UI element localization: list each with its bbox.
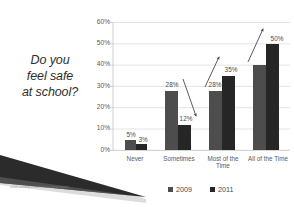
bar-label-sometimes-2009: 28% bbox=[162, 82, 182, 88]
bar-sometimes-2011[interactable] bbox=[178, 125, 191, 151]
bar-label-sometimes-2011: 12% bbox=[176, 116, 196, 122]
legend-entry-2011[interactable]: 2011 bbox=[210, 186, 233, 193]
ytick-label-50: 50% bbox=[84, 40, 110, 47]
legend-entry-2009[interactable]: 2009 bbox=[168, 186, 192, 193]
xtick-label-most-of-the-time-line-2: Time bbox=[216, 162, 230, 169]
bar-all-of-the-time-2009[interactable] bbox=[253, 65, 266, 150]
ytick-label-30: 30% bbox=[84, 83, 110, 90]
xtick-label-most-of-the-time: Most of the Time bbox=[202, 155, 244, 170]
bar-label-never-2011: 3% bbox=[134, 137, 152, 143]
xtick-label-sometimes: Sometimes bbox=[159, 155, 199, 162]
ytick-label-0: 0% bbox=[84, 147, 110, 154]
legend-swatch-2009-icon bbox=[168, 187, 173, 192]
ytick-label-10: 10% bbox=[84, 125, 110, 132]
ytick-label-60: 60% bbox=[84, 19, 110, 26]
bar-most-of-the-time-2009[interactable] bbox=[209, 91, 222, 151]
ytick-label-40: 40% bbox=[84, 61, 110, 68]
bar-never-2011[interactable] bbox=[136, 144, 147, 150]
bar-chart: 60% 50% 40% 30% 20% 10% 0% 5% 3% 28% 12%… bbox=[0, 0, 294, 207]
bar-group-sometimes: 28% 12% bbox=[157, 0, 201, 150]
bar-label-most-of-the-time-2011: 35% bbox=[221, 67, 241, 73]
legend-label-2009: 2009 bbox=[176, 186, 192, 193]
legend-label-2011: 2011 bbox=[218, 186, 233, 193]
xtick-label-all-of-the-time: All of the Time bbox=[245, 155, 291, 162]
bar-label-all-of-the-time-2009: 40% bbox=[249, 57, 269, 63]
bar-group-all-of-the-time: 40% 50% bbox=[245, 0, 289, 150]
xtick-label-most-of-the-time-line-1: Most of the bbox=[207, 155, 238, 162]
bar-group-never: 5% 3% bbox=[113, 0, 157, 150]
bar-label-most-of-the-time-2009: 28% bbox=[205, 82, 225, 88]
bar-group-most-of-the-time: 28% 35% bbox=[201, 0, 245, 150]
legend-swatch-2011-icon bbox=[210, 187, 215, 192]
bar-label-all-of-the-time-2011: 50% bbox=[267, 36, 287, 42]
xtick-label-never: Never bbox=[117, 155, 153, 162]
ytick-label-20: 20% bbox=[84, 104, 110, 111]
chart-legend: 2009 2011 bbox=[168, 186, 233, 193]
